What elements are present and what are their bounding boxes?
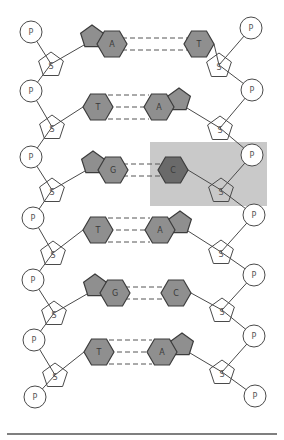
phosphate-label: P	[29, 28, 34, 37]
base-label: C	[173, 289, 179, 298]
right-sugar: S	[208, 116, 233, 140]
right-phosphate: P	[244, 385, 266, 407]
left-sugar: S	[41, 241, 66, 265]
phosphate-label: P	[32, 336, 37, 345]
sugar-label: S	[52, 373, 57, 382]
phosphate-label: P	[250, 151, 255, 160]
base-label: A	[156, 103, 162, 112]
base-label: T	[95, 103, 101, 112]
base-t: T	[184, 31, 214, 57]
sugar-label: S	[219, 370, 224, 379]
backbone-bonds-layer	[31, 28, 255, 397]
right-sugar: S	[207, 53, 232, 77]
sugar-label: S	[218, 250, 223, 259]
sugar-label: S	[48, 62, 53, 71]
left-sugar: S	[39, 52, 64, 76]
phosphate-label: P	[29, 153, 34, 162]
sugar-label: S	[216, 63, 221, 72]
base-label: G	[112, 289, 118, 298]
right-sugar: S	[209, 240, 234, 264]
base-c: C	[161, 280, 191, 306]
phosphate-label: P	[252, 271, 257, 280]
left-phosphate: P	[22, 269, 44, 291]
right-sugar: S	[210, 360, 235, 384]
left-phosphate: P	[24, 386, 46, 408]
left-sugar: S	[40, 115, 65, 139]
left-phosphate: P	[20, 21, 42, 43]
base-label: T	[96, 348, 102, 357]
sugar-label: S	[49, 125, 54, 134]
right-phosphate: P	[241, 144, 263, 166]
base-label: G	[110, 166, 116, 175]
right-phosphate: P	[241, 79, 263, 101]
phosphate-label: P	[33, 393, 38, 402]
phosphate-label: P	[252, 332, 257, 341]
phosphate-label: P	[31, 214, 36, 223]
right-phosphate: P	[243, 325, 265, 347]
base-t: T	[83, 94, 113, 120]
phosphate-label: P	[29, 87, 34, 96]
phosphate-label: P	[249, 24, 254, 33]
base-t: T	[84, 339, 114, 365]
base-label: T	[196, 40, 202, 49]
phosphate-label: P	[31, 276, 36, 285]
base-a: A	[147, 333, 193, 365]
base-t: T	[83, 217, 113, 243]
base-g: G	[82, 151, 128, 183]
left-phosphate: P	[22, 207, 44, 229]
sugar-label: S	[218, 188, 223, 197]
base-a: A	[145, 211, 191, 243]
left-phosphate: P	[23, 329, 45, 351]
sugar-label: S	[51, 311, 56, 320]
sugar-label: S	[50, 251, 55, 260]
left-phosphate: P	[20, 80, 42, 102]
base-label: T	[95, 226, 101, 235]
sugar-label: S	[49, 188, 54, 197]
phosphate-label: P	[253, 392, 258, 401]
base-label: A	[157, 226, 163, 235]
base-label: A	[159, 348, 165, 357]
right-phosphate: P	[240, 17, 262, 39]
right-phosphate: P	[243, 264, 265, 286]
right-sugar: S	[210, 298, 235, 322]
sugar-label: S	[219, 308, 224, 317]
base-label: C	[170, 166, 176, 175]
dna-diagram: ATTAGCTAGCTASSSSSSPPPPPPPSSSSSSPPPPPPP	[0, 0, 284, 440]
base-a: A	[144, 88, 190, 120]
base-g: G	[84, 274, 130, 306]
left-phosphate: P	[20, 146, 42, 168]
base-a: A	[81, 25, 127, 57]
phosphate-label: P	[252, 211, 257, 220]
left-sugar: S	[43, 363, 68, 387]
phosphate-label: P	[250, 86, 255, 95]
left-sugar: S	[40, 178, 65, 202]
base-label: A	[109, 40, 115, 49]
sugar-label: S	[217, 126, 222, 135]
right-phosphate: P	[243, 204, 265, 226]
left-sugar: S	[42, 301, 67, 325]
nucleotide-layer: ATTAGCTAGCTASSSSSSPPPPPPPSSSSSSPPPPPPP	[20, 17, 266, 408]
